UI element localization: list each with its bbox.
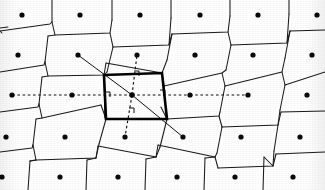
- lattice-point: [304, 92, 309, 97]
- lattice-point: [297, 134, 302, 139]
- lattice-point: [19, 12, 24, 17]
- lattice-point: [62, 134, 67, 139]
- lattice-point: [232, 174, 237, 179]
- lattice-point: [3, 134, 8, 139]
- lattice-point: [122, 134, 127, 139]
- lattice-point: [77, 12, 82, 17]
- lattice-point: [57, 174, 62, 179]
- lattice-point: [238, 134, 243, 139]
- lattice-point: [192, 52, 197, 57]
- lattice-point: [69, 92, 74, 97]
- lattice-point: [309, 52, 314, 57]
- lattice-point: [245, 92, 250, 97]
- lattice-point: [134, 52, 139, 57]
- lattice-point: [290, 174, 295, 179]
- lattice-point: [250, 52, 255, 57]
- lattice-point: [314, 12, 319, 17]
- lattice-point: [197, 12, 202, 17]
- lattice-point: [187, 92, 192, 97]
- voronoi-lattice-diagram: [0, 0, 325, 190]
- lattice-point: [9, 92, 14, 97]
- lattice-point: [15, 52, 20, 57]
- lattice-point: [75, 52, 80, 57]
- lattice-point: [115, 174, 120, 179]
- wigner-seitz-figure: [0, 0, 325, 190]
- central-lattice-point: [129, 92, 135, 98]
- lattice-point: [137, 12, 142, 17]
- lattice-point: [180, 134, 185, 139]
- lattice-point: [174, 174, 179, 179]
- lattice-point: [255, 12, 260, 17]
